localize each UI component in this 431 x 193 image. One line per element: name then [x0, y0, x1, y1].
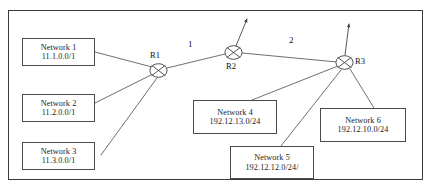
link-cost-label-r2-r3: 2 — [289, 35, 294, 45]
network-name-network-2: Network 2 — [41, 99, 77, 108]
router-label-r2: R2 — [226, 61, 236, 71]
network-box-network-4[interactable]: Network 4 192.12.13.0/24 — [193, 100, 277, 134]
network-name-network-4: Network 4 — [217, 108, 253, 117]
network-address-network-6: 192.12.10.0/24 — [338, 125, 389, 134]
network-address-network-2: 11.2.0.0/1 — [42, 108, 76, 117]
network-address-network-3: 11.3.0.0/1 — [42, 156, 76, 165]
network-address-network-4: 192.12.13.0/24 — [210, 117, 261, 126]
caption-bottom — [0, 182, 431, 193]
network-diagram: R1 R2 R3 1 2 Network 1 11.1.0.0/1 Networ… — [0, 0, 431, 193]
network-box-network-2[interactable]: Network 2 11.2.0.0/1 — [22, 94, 95, 122]
router-label-r1: R1 — [150, 50, 160, 60]
network-box-network-1[interactable]: Network 1 11.1.0.0/1 — [22, 38, 95, 66]
network-box-network-5[interactable]: Network 5 192.12.12.0/24/ — [230, 146, 314, 179]
network-name-network-1: Network 1 — [41, 43, 77, 52]
router-label-r3: R3 — [355, 56, 365, 66]
router-node-r3[interactable] — [335, 55, 354, 70]
link-cost-label-r1-r2: 1 — [188, 39, 193, 49]
network-address-network-1: 11.1.0.0/1 — [42, 52, 76, 61]
network-name-network-3: Network 3 — [41, 147, 77, 156]
network-box-network-3[interactable]: Network 3 11.3.0.0/1 — [22, 142, 95, 170]
network-name-network-6: Network 6 — [345, 116, 381, 125]
network-name-network-5: Network 5 — [254, 153, 290, 162]
caption-top — [0, 0, 431, 8]
router-node-r1[interactable] — [149, 63, 168, 78]
network-box-network-6[interactable]: Network 6 192.12.10.0/24 — [320, 108, 406, 142]
network-address-network-5: 192.12.12.0/24/ — [245, 163, 298, 172]
router-node-r2[interactable] — [224, 45, 243, 60]
